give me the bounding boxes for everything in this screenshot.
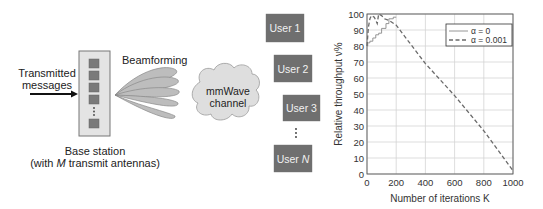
x-tick-label: 800 <box>476 177 492 188</box>
throughput-chart: 020040060080010000102030405060708090100N… <box>330 0 543 209</box>
input-arrow-icon <box>30 91 78 98</box>
y-tick-label: 60 <box>353 73 364 84</box>
y-tick-label: 30 <box>353 121 364 132</box>
user-1-box: User 1 <box>266 14 304 42</box>
y-tick-label: 80 <box>353 41 364 52</box>
base-station-label-line2: (with M transmit antennas) <box>30 157 160 169</box>
y-tick-label: 100 <box>348 9 364 20</box>
base-station-label-line1: Base station <box>30 145 160 157</box>
user-2-box: User 2 <box>274 55 312 82</box>
user-n-prefix: User <box>277 153 302 165</box>
beamforming-lobes-icon <box>115 68 179 119</box>
y-tick-label: 40 <box>353 105 364 116</box>
mmwave-channel-label: mmWave channel <box>200 85 256 109</box>
bs-suffix: transmit antennas) <box>66 157 160 169</box>
user-n-var: N <box>302 153 310 165</box>
y-tick-label: 20 <box>353 137 364 148</box>
channel-label-line2: channel <box>200 97 256 109</box>
legend-label: α = 0.001 <box>471 35 507 45</box>
x-tick-label: 1000 <box>502 177 523 188</box>
y-axis-label: Relative throughput ν% <box>333 42 344 146</box>
user-3-box: User 3 <box>283 95 320 121</box>
user-ellipsis-icon <box>295 128 297 138</box>
beamforming-label: Beamforming <box>122 54 187 66</box>
bs-prefix: (with <box>30 157 56 169</box>
y-tick-label: 10 <box>353 153 364 164</box>
x-tick-label: 600 <box>447 177 463 188</box>
channel-label-line1: mmWave <box>200 85 256 97</box>
y-tick-label: 70 <box>353 57 364 68</box>
x-tick-label: 200 <box>388 177 404 188</box>
x-tick-label: 400 <box>417 177 433 188</box>
y-tick-label: 0 <box>359 169 364 180</box>
bs-var-m: M <box>56 157 65 169</box>
y-tick-label: 90 <box>353 25 364 36</box>
x-axis-label: Number of iterations K <box>390 193 490 204</box>
base-station-label: Base station (with M transmit antennas) <box>30 145 160 169</box>
antenna-ellipsis-icon <box>93 107 95 116</box>
x-tick-label: 0 <box>364 177 369 188</box>
y-tick-label: 50 <box>353 89 364 100</box>
user-n-box: User N <box>274 145 312 172</box>
